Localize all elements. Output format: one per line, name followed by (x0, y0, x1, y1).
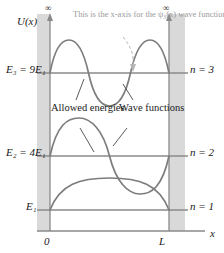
diagram-svg (0, 0, 224, 253)
x-axis-label: x (210, 228, 215, 240)
figure-container: ∞ ∞ U(x) x 0 L E₃ = 9E₁ E₂ = 4E₁ E₁ n = … (0, 0, 224, 253)
energy-label-n1: E₁ (26, 201, 37, 213)
x-tick-label-length: L (159, 236, 165, 248)
allowed-energies-leader-lower (80, 128, 94, 152)
allowed-energies-label: Allowed energies (51, 102, 125, 115)
left-wall-region (37, 14, 50, 231)
quantum-number-label-n3: n = 3 (190, 64, 214, 76)
note-leader-line (123, 37, 133, 66)
quantum-number-label-n1: n = 1 (190, 201, 214, 213)
right-wall-region (169, 14, 185, 231)
note-annotation: This is the x-axis for the ψ₃(x) wave fu… (73, 9, 224, 20)
infinity-symbol-left: ∞ (45, 4, 51, 14)
quantum-number-label-n2: n = 2 (190, 147, 214, 159)
wave-functions-label: Wave functions (119, 102, 184, 115)
wave-function-curve-n1 (50, 178, 169, 210)
energy-label-n3: E₃ = 9E₁ (6, 64, 46, 76)
y-axis-label: U(x) (17, 16, 37, 28)
allowed-energies-leader-upper (76, 79, 84, 100)
x-tick-label-origin: 0 (44, 236, 50, 248)
wave-functions-leader-lower (113, 128, 127, 146)
energy-label-n2: E₂ = 4E₁ (6, 147, 46, 159)
